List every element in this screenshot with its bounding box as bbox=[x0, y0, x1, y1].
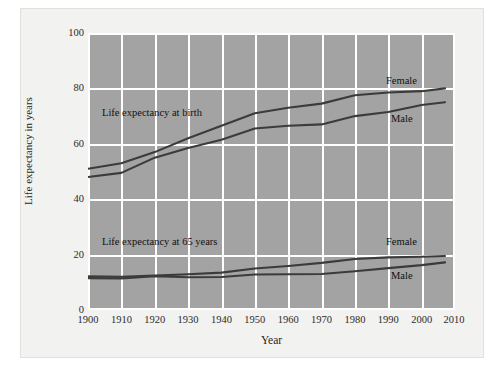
y-axis-label: Life expectancy in years bbox=[22, 71, 34, 231]
y-tick-60: 60 bbox=[56, 138, 84, 149]
annotation-life-expectancy-at-birth: Life expectancy at birth bbox=[102, 107, 202, 118]
y-tick-20: 20 bbox=[56, 249, 84, 260]
series-label-birth-male: Male bbox=[391, 113, 413, 124]
figure-page: 100 80 60 40 20 0 Life expectancy in yea… bbox=[0, 0, 500, 371]
x-axis-label: Year bbox=[88, 334, 455, 346]
plot-area: Life expectancy at birth Life expectancy… bbox=[88, 33, 455, 310]
y-axis-ticks: 100 80 60 40 20 0 bbox=[52, 33, 84, 310]
y-tick-40: 40 bbox=[56, 193, 84, 204]
y-tick-100: 100 bbox=[56, 27, 84, 38]
x-tick-2010: 2010 bbox=[434, 314, 474, 326]
series-label-age65-female: Female bbox=[386, 236, 417, 247]
y-tick-80: 80 bbox=[56, 82, 84, 93]
series-label-birth-female: Female bbox=[386, 75, 417, 86]
series-label-age65-male: Male bbox=[391, 270, 413, 281]
annotation-life-expectancy-at-65: Life expectancy at 65 years bbox=[102, 236, 217, 247]
x-axis-ticks: 1900 1910 1920 1930 1940 1950 1960 1970 … bbox=[88, 314, 455, 330]
line-chart: 100 80 60 40 20 0 Life expectancy in yea… bbox=[0, 0, 500, 371]
